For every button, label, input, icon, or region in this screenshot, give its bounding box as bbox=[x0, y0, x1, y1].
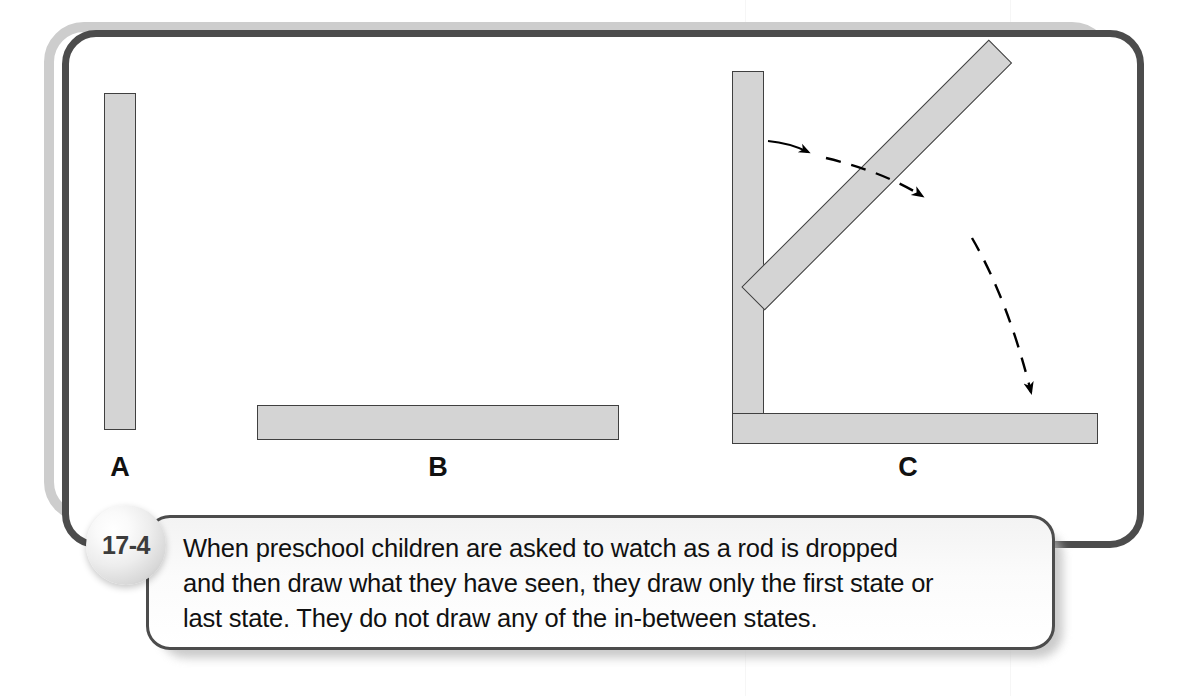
caption-box: When preschool children are asked to wat… bbox=[146, 515, 1055, 650]
figure-number-label: 17-4 bbox=[102, 531, 150, 560]
caption-line: and then draw what they have seen, they … bbox=[183, 566, 1026, 601]
panel-label-a: A bbox=[90, 452, 150, 483]
rod-a-vertical bbox=[104, 93, 136, 430]
rod-c-horizontal bbox=[732, 413, 1098, 444]
panel-label-b: B bbox=[408, 452, 468, 483]
panel-label-c: C bbox=[878, 452, 938, 483]
rod-c-vertical bbox=[732, 71, 764, 416]
figure-stage: A B C When preschool children are asked … bbox=[0, 0, 1179, 696]
figure-frame bbox=[62, 30, 1144, 548]
caption-line: last state. They do not draw any of the … bbox=[183, 601, 1026, 636]
rod-b-horizontal bbox=[257, 405, 619, 440]
figure-number-badge: 17-4 bbox=[86, 505, 166, 585]
caption-line: When preschool children are asked to wat… bbox=[183, 531, 1026, 566]
